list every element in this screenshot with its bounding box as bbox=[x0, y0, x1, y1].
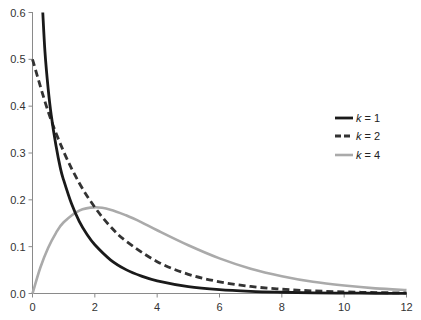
legend-label: k = 1 bbox=[356, 112, 380, 124]
y-tick-label: 0.0 bbox=[10, 288, 25, 300]
axes: 0.00.10.20.30.40.50.6 024681012 bbox=[10, 7, 412, 313]
y-tick-label: 0.4 bbox=[10, 100, 25, 112]
y-tick-label: 0.2 bbox=[10, 194, 25, 206]
legend-value: = 2 bbox=[362, 130, 381, 142]
x-tick-label: 12 bbox=[400, 301, 412, 313]
legend-value: = 1 bbox=[362, 112, 381, 124]
legend-label: k = 4 bbox=[356, 149, 380, 161]
legend-value: = 4 bbox=[362, 149, 381, 161]
curves bbox=[33, 13, 407, 294]
x-ticks: 024681012 bbox=[29, 294, 412, 313]
y-ticks: 0.00.10.20.30.40.50.6 bbox=[10, 7, 32, 300]
x-tick-label: 6 bbox=[216, 301, 222, 313]
legend-label: k = 2 bbox=[356, 130, 380, 142]
y-tick-label: 0.1 bbox=[10, 241, 25, 253]
x-tick-label: 2 bbox=[92, 301, 98, 313]
x-tick-label: 8 bbox=[279, 301, 285, 313]
x-tick-label: 0 bbox=[29, 301, 35, 313]
x-tick-label: 4 bbox=[154, 301, 160, 313]
curve-k1 bbox=[43, 13, 407, 294]
x-tick-label: 10 bbox=[338, 301, 350, 313]
chart: 0.00.10.20.30.40.50.6 024681012 k = 1k =… bbox=[0, 0, 421, 320]
legend: k = 1k = 2k = 4 bbox=[335, 112, 380, 161]
y-tick-label: 0.3 bbox=[10, 147, 25, 159]
legend-item-k2: k = 2 bbox=[335, 130, 380, 142]
y-tick-label: 0.5 bbox=[10, 53, 25, 65]
legend-item-k4: k = 4 bbox=[335, 149, 380, 161]
legend-item-k1: k = 1 bbox=[335, 112, 380, 124]
y-tick-label: 0.6 bbox=[10, 7, 25, 19]
